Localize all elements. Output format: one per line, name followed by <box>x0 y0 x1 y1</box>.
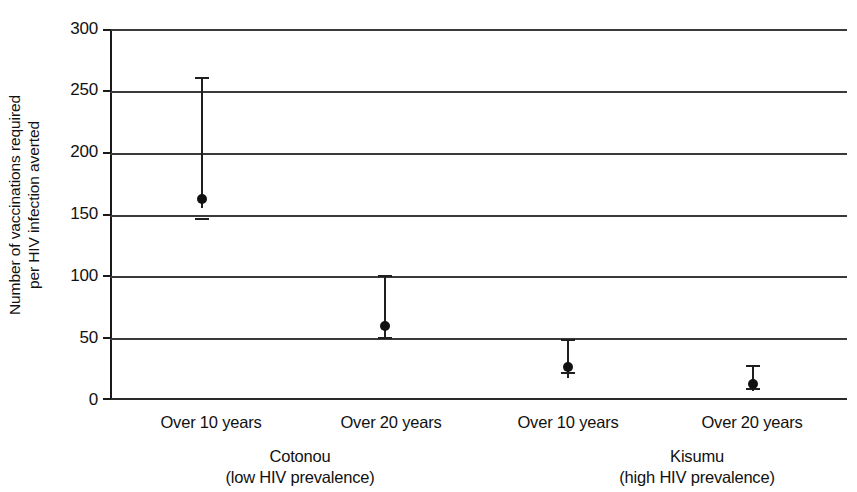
y-axis-title: Number of vaccinations required per HIV … <box>0 0 48 410</box>
y-axis-title-line-2: per HIV infection averted <box>24 95 43 315</box>
x-tick-label-cotonou-20y: Over 20 years <box>340 413 441 432</box>
group-sublabel-cotonou: (low HIV prevalence) <box>225 467 374 488</box>
errorbar-upper-cap <box>746 365 760 367</box>
errorbar-upper-cap <box>195 77 209 79</box>
y-tick-label-250: 250 <box>54 80 98 100</box>
errorbar-lower-cap <box>378 337 392 339</box>
x-tick-label-kisumu-20y: Over 20 years <box>701 413 802 432</box>
errorbar-lower-cap <box>195 218 209 220</box>
chart-figure: Number of vaccinations required per HIV … <box>0 0 857 492</box>
y-tickmark-50 <box>103 337 111 339</box>
marker-dot <box>380 321 390 331</box>
group-sublabel-kisumu: (high HIV prevalence) <box>619 467 774 488</box>
y-tick-label-150: 150 <box>54 204 98 224</box>
y-tickmark-150 <box>103 214 111 216</box>
y-tick-label-200: 200 <box>54 142 98 162</box>
group-name-cotonou: Cotonou <box>225 446 374 467</box>
errorbar-upper-cap <box>378 275 392 277</box>
errorbar-lower-cap <box>561 372 575 374</box>
gridline-300 <box>110 29 847 31</box>
y-tick-label-50: 50 <box>54 328 98 348</box>
errorbar-upper-cap <box>561 339 575 341</box>
group-label-kisumu: Kisumu (high HIV prevalence) <box>619 446 774 488</box>
y-tickmark-100 <box>103 275 111 277</box>
y-tick-label-100: 100 <box>54 266 98 286</box>
y-axis-tick-labels: 300 250 200 150 100 50 0 <box>48 0 98 492</box>
x-tick-label-kisumu-10y: Over 10 years <box>517 413 618 432</box>
gridline-200 <box>110 153 847 155</box>
x-tick-label-cotonou-10y: Over 10 years <box>160 413 261 432</box>
marker-dot <box>563 362 573 372</box>
errorbar-line <box>201 78 203 208</box>
plot-area <box>110 29 847 400</box>
y-tickmark-0 <box>103 398 111 400</box>
y-tick-label-0: 0 <box>54 390 98 410</box>
gridline-250 <box>110 91 847 93</box>
gridline-100 <box>110 276 847 278</box>
y-tickmark-250 <box>103 90 111 92</box>
gridline-0 <box>110 398 847 400</box>
y-tickmark-200 <box>103 152 111 154</box>
marker-dot <box>197 194 207 204</box>
group-name-kisumu: Kisumu <box>619 446 774 467</box>
y-axis-title-line-1: Number of vaccinations required <box>5 95 24 315</box>
group-label-cotonou: Cotonou (low HIV prevalence) <box>225 446 374 488</box>
gridline-50 <box>110 338 847 340</box>
marker-dot <box>748 379 758 389</box>
gridline-150 <box>110 215 847 217</box>
y-tickmark-300 <box>103 29 111 31</box>
y-tick-label-300: 300 <box>54 19 98 39</box>
